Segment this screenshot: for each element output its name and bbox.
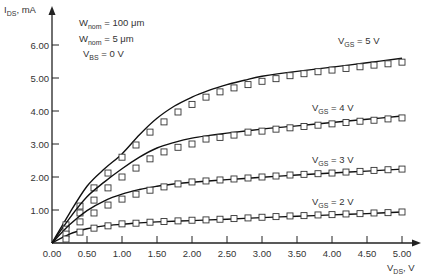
square-marker-icon bbox=[189, 101, 195, 107]
square-marker-icon bbox=[385, 116, 391, 122]
x-tick-label: 4.00 bbox=[323, 248, 342, 259]
square-marker-icon bbox=[315, 212, 321, 218]
square-marker-icon bbox=[189, 217, 195, 223]
square-marker-icon bbox=[245, 129, 251, 135]
square-marker-icon bbox=[329, 212, 335, 218]
square-marker-icon bbox=[399, 59, 405, 65]
x-tick-label: 0.00 bbox=[43, 248, 62, 259]
annotation-width: Wnom = 100 μm bbox=[79, 17, 144, 30]
square-marker-icon bbox=[105, 223, 111, 229]
square-marker-icon bbox=[315, 171, 321, 177]
square-marker-icon bbox=[217, 216, 223, 222]
square-marker-icon bbox=[175, 144, 181, 150]
square-marker-icon bbox=[203, 136, 209, 142]
y-tick-label: 5.00 bbox=[31, 73, 50, 84]
square-marker-icon bbox=[161, 149, 167, 155]
square-marker-icon bbox=[385, 210, 391, 216]
square-marker-icon bbox=[105, 202, 111, 208]
square-marker-icon bbox=[357, 168, 363, 174]
square-marker-icon bbox=[147, 129, 153, 135]
curve-label: VGS = 4 V bbox=[312, 102, 354, 115]
square-marker-icon bbox=[287, 213, 293, 219]
square-marker-icon bbox=[371, 167, 377, 173]
iv-characteristics-chart: 0.000.501.001.502.002.503.003.504.004.50… bbox=[0, 0, 437, 274]
square-marker-icon bbox=[119, 196, 125, 202]
square-marker-icon bbox=[399, 166, 405, 172]
square-marker-icon bbox=[343, 65, 349, 71]
square-marker-icon bbox=[385, 61, 391, 67]
y-tick-label: 2.00 bbox=[31, 172, 50, 183]
square-marker-icon bbox=[259, 214, 265, 220]
series-vgs-2v bbox=[52, 209, 405, 243]
series-vgs-5v bbox=[52, 58, 405, 243]
square-marker-icon bbox=[329, 170, 335, 176]
x-tick-label: 4.50 bbox=[358, 248, 377, 259]
square-marker-icon bbox=[105, 170, 111, 176]
square-marker-icon bbox=[147, 219, 153, 225]
square-marker-icon bbox=[161, 184, 167, 190]
square-marker-icon bbox=[147, 156, 153, 162]
square-marker-icon bbox=[357, 64, 363, 70]
square-marker-icon bbox=[217, 134, 223, 140]
square-marker-icon bbox=[105, 185, 111, 191]
square-marker-icon bbox=[259, 78, 265, 84]
square-marker-icon bbox=[273, 173, 279, 179]
x-tick-label: 2.00 bbox=[183, 248, 202, 259]
curve-label: VGS = 5 V bbox=[338, 35, 380, 48]
square-marker-icon bbox=[315, 69, 321, 75]
square-marker-icon bbox=[91, 197, 97, 203]
curve-label: VGS = 2 V bbox=[312, 196, 354, 209]
square-marker-icon bbox=[77, 229, 83, 235]
y-axis-label: IDS, mA bbox=[4, 4, 37, 17]
square-marker-icon bbox=[189, 179, 195, 185]
square-marker-icon bbox=[259, 128, 265, 134]
square-marker-icon bbox=[273, 126, 279, 132]
square-marker-icon bbox=[175, 218, 181, 224]
square-marker-icon bbox=[259, 174, 265, 180]
square-marker-icon bbox=[161, 119, 167, 125]
square-marker-icon bbox=[231, 85, 237, 91]
square-marker-icon bbox=[231, 216, 237, 222]
square-marker-icon bbox=[217, 89, 223, 95]
square-marker-icon bbox=[301, 213, 307, 219]
square-marker-icon bbox=[329, 121, 335, 127]
square-marker-icon bbox=[175, 181, 181, 187]
annotation-length: Wnom = 5 μm bbox=[79, 33, 134, 46]
square-marker-icon bbox=[343, 211, 349, 217]
square-marker-icon bbox=[245, 82, 251, 88]
annotation-vbs: VBS = 0 V bbox=[83, 48, 124, 61]
x-tick-label: 3.50 bbox=[288, 248, 307, 259]
square-marker-icon bbox=[245, 215, 251, 221]
square-marker-icon bbox=[175, 109, 181, 115]
square-marker-icon bbox=[189, 141, 195, 147]
square-marker-icon bbox=[399, 115, 405, 121]
x-ticks: 0.000.501.001.502.002.503.003.504.004.50… bbox=[43, 236, 412, 259]
square-marker-icon bbox=[119, 174, 125, 180]
square-marker-icon bbox=[91, 210, 97, 216]
device-parameters: Wnom = 100 μm Wnom = 5 μm VBS = 0 V bbox=[79, 17, 144, 61]
x-tick-label: 1.00 bbox=[113, 248, 132, 259]
square-marker-icon bbox=[301, 124, 307, 130]
square-marker-icon bbox=[301, 71, 307, 77]
square-marker-icon bbox=[63, 236, 69, 242]
y-ticks: 1.002.003.004.005.006.00 bbox=[31, 40, 60, 216]
series-layer bbox=[52, 58, 405, 243]
square-marker-icon bbox=[273, 76, 279, 82]
square-marker-icon bbox=[273, 214, 279, 220]
x-axis-arrow-icon bbox=[412, 240, 421, 247]
square-marker-icon bbox=[287, 172, 293, 178]
square-marker-icon bbox=[133, 142, 139, 148]
square-marker-icon bbox=[329, 67, 335, 73]
y-tick-label: 3.00 bbox=[31, 139, 50, 150]
model-curve bbox=[52, 58, 402, 243]
square-marker-icon bbox=[399, 209, 405, 215]
y-tick-label: 6.00 bbox=[31, 40, 50, 51]
y-tick-label: 4.00 bbox=[31, 106, 50, 117]
square-marker-icon bbox=[217, 177, 223, 183]
x-tick-label: 1.50 bbox=[148, 248, 167, 259]
square-marker-icon bbox=[245, 175, 251, 181]
square-marker-icon bbox=[357, 211, 363, 217]
x-tick-label: 3.00 bbox=[253, 248, 272, 259]
square-marker-icon bbox=[343, 169, 349, 175]
square-marker-icon bbox=[203, 94, 209, 100]
